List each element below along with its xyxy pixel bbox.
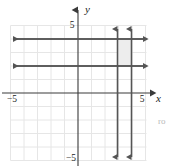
graph-figure: y x 5 −5 −5 5 ro [0,0,178,166]
x-tick-label-positive-5: 5 [140,94,145,104]
y-tick-label-positive-5: 5 [70,20,75,30]
y-tick-label-negative-5: −5 [66,153,76,163]
x-axis-label: x [155,92,161,104]
shaded-solution-region [118,39,132,66]
page-corner-text-fragment: ro [158,116,166,126]
y-axis-label: y [84,3,90,15]
coordinate-plane-svg: y x 5 −5 −5 5 [0,0,178,166]
x-tick-label-negative-5: −5 [7,94,17,104]
